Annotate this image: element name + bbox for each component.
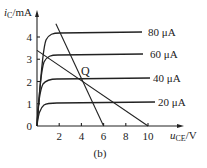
- bjt-output-characteristics-chart: 2 4 6 8 10 0 1 2 3 4 iC/mA uCE/V 80 μA 6…: [0, 0, 207, 168]
- x-axis-label: uCE/V: [170, 129, 197, 143]
- curve-60uA: [37, 54, 143, 126]
- y-axis-arrow-icon: [35, 10, 39, 17]
- curve-labels: 80 μA 60 μA 40 μA 20 μA: [148, 26, 186, 108]
- y-tick-label: 2: [27, 76, 33, 88]
- y-tick-label: 1: [27, 98, 33, 110]
- x-tick-label: 4: [79, 130, 85, 142]
- characteristic-curves: [37, 32, 155, 126]
- dc-load-line: [37, 50, 148, 126]
- y-axis-unit: /mA: [12, 6, 32, 18]
- x-tick-labels: 2 4 6 8 10: [56, 130, 154, 142]
- x-tick-label: 8: [123, 130, 129, 142]
- x-axis-arrow-icon: [177, 124, 184, 128]
- y-tick-labels: 0 1 2 3 4: [27, 31, 33, 132]
- origin-label: 0: [27, 120, 33, 132]
- curve-label-60uA: 60 μA: [150, 48, 178, 60]
- figure-caption: (b): [94, 147, 107, 160]
- load-lines: [37, 24, 148, 126]
- y-tick-label: 4: [27, 31, 33, 43]
- y-tick-label: 3: [27, 53, 33, 65]
- x-axis-sub: CE: [176, 134, 186, 143]
- x-axis-unit: /V: [186, 129, 197, 141]
- x-tick-label: 2: [56, 130, 62, 142]
- curve-label-20uA: 20 μA: [158, 96, 186, 108]
- curve-20uA: [37, 102, 155, 126]
- y-axis-label: iC/mA: [4, 6, 32, 20]
- ac-load-line: [56, 24, 104, 126]
- curve-label-80uA: 80 μA: [148, 26, 176, 38]
- x-tick-label: 10: [143, 130, 155, 142]
- curve-label-40uA: 40 μA: [153, 72, 181, 84]
- q-point-label: Q: [81, 64, 90, 78]
- x-tick-label: 6: [101, 130, 107, 142]
